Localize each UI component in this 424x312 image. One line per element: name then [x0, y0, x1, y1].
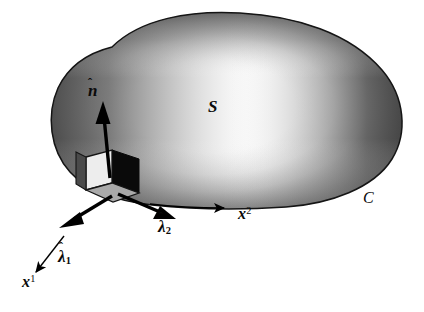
surface-label-S: S	[208, 98, 217, 115]
element-face-sliver	[76, 152, 86, 190]
x2-superscript: 2	[246, 205, 251, 216]
lambda1-subscript: 1	[66, 255, 71, 266]
x2-symbol: x	[238, 205, 246, 222]
coordinate-label-x1: x1	[22, 274, 35, 290]
x1-symbol: x	[22, 273, 30, 290]
tangent-vector-lambda1	[59, 196, 112, 228]
x1-superscript: 1	[30, 273, 35, 284]
normal-symbol: n	[88, 81, 97, 100]
lambda2-symbol: λ	[158, 217, 166, 236]
tangent-label-lambda1: ̂λ1	[58, 248, 71, 267]
figure-container: n̂ S C ̂λ1 ̂λ2 x1 x2	[0, 0, 424, 312]
curve-label-C: C	[363, 190, 374, 206]
tangent-label-lambda2: ̂λ2	[158, 218, 171, 237]
lambda2-subscript: 2	[166, 225, 171, 236]
normal-vector-label: n̂	[88, 82, 97, 99]
coordinate-label-x2: x2	[238, 206, 251, 222]
lambda1-symbol: λ	[58, 247, 66, 266]
